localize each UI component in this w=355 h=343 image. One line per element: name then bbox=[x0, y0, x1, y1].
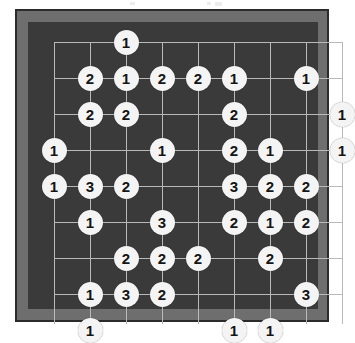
stone-c1-r1[interactable]: 2 bbox=[78, 66, 103, 91]
stone-c2-r0[interactable]: 1 bbox=[114, 30, 139, 55]
page-bottom-margin bbox=[0, 324, 345, 332]
stone-c8-r2[interactable]: 1 bbox=[330, 102, 355, 127]
stone-c5-r3[interactable]: 2 bbox=[222, 138, 247, 163]
stone-c5-r8[interactable]: 1 bbox=[222, 318, 247, 343]
stone-c1-r2[interactable]: 2 bbox=[78, 102, 103, 127]
stone-c1-r7[interactable]: 1 bbox=[78, 282, 103, 307]
scan-smudge-2 bbox=[207, 2, 211, 5]
stone-c0-r3[interactable]: 1 bbox=[42, 138, 67, 163]
stone-c6-r3[interactable]: 1 bbox=[258, 138, 283, 163]
grid-line-vertical-8 bbox=[342, 42, 343, 330]
stone-c2-r7[interactable]: 3 bbox=[114, 282, 139, 307]
stone-c5-r5[interactable]: 2 bbox=[222, 210, 247, 235]
scan-smudge-3 bbox=[215, 2, 222, 6]
stone-c3-r7[interactable]: 2 bbox=[150, 282, 175, 307]
stone-c6-r5[interactable]: 1 bbox=[258, 210, 283, 235]
stone-c4-r1[interactable]: 2 bbox=[186, 66, 211, 91]
stone-c2-r1[interactable]: 1 bbox=[114, 66, 139, 91]
scan-smudge-1 bbox=[130, 2, 135, 5]
stone-c6-r4[interactable]: 2 bbox=[258, 174, 283, 199]
stone-c6-r8[interactable]: 1 bbox=[258, 318, 283, 343]
stone-c3-r3[interactable]: 1 bbox=[150, 138, 175, 163]
stone-c7-r1[interactable]: 1 bbox=[294, 66, 319, 91]
go-board-surface[interactable]: 12122112221112111323221321222221323111 bbox=[28, 22, 318, 309]
stone-c2-r4[interactable]: 2 bbox=[114, 174, 139, 199]
go-board-frame: 12122112221112111323221321222221323111 bbox=[15, 9, 329, 322]
stone-c2-r6[interactable]: 2 bbox=[114, 246, 139, 271]
scan-artifact-strip bbox=[0, 0, 345, 9]
stone-c5-r4[interactable]: 3 bbox=[222, 174, 247, 199]
stone-c5-r1[interactable]: 1 bbox=[222, 66, 247, 91]
stone-c3-r5[interactable]: 3 bbox=[150, 210, 175, 235]
stone-c7-r5[interactable]: 2 bbox=[294, 210, 319, 235]
stone-c6-r6[interactable]: 2 bbox=[258, 246, 283, 271]
stone-c2-r2[interactable]: 2 bbox=[114, 102, 139, 127]
stone-c4-r6[interactable]: 2 bbox=[186, 246, 211, 271]
stone-c0-r4[interactable]: 1 bbox=[42, 174, 67, 199]
stone-c5-r2[interactable]: 2 bbox=[222, 102, 247, 127]
stone-c1-r5[interactable]: 1 bbox=[78, 210, 103, 235]
stone-c8-r3[interactable]: 1 bbox=[330, 138, 355, 163]
stone-c1-r4[interactable]: 3 bbox=[78, 174, 103, 199]
stone-c3-r1[interactable]: 2 bbox=[150, 66, 175, 91]
stone-c7-r4[interactable]: 2 bbox=[294, 174, 319, 199]
stone-c1-r8[interactable]: 1 bbox=[78, 318, 103, 343]
stone-c7-r7[interactable]: 3 bbox=[294, 282, 319, 307]
stone-c3-r6[interactable]: 2 bbox=[150, 246, 175, 271]
